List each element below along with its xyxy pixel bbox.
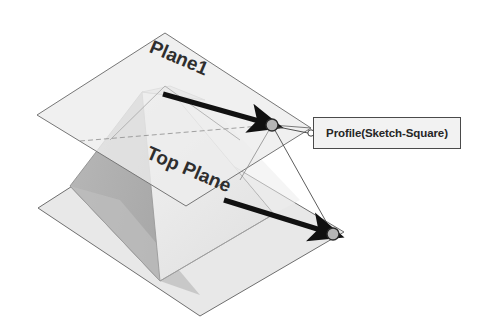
cad-scene [0,0,493,325]
profile-vertex-upper-icon[interactable] [266,119,278,131]
profile-callout-box[interactable]: Profile(Sketch-Square) [313,117,461,149]
profile-vertex-lower-icon[interactable] [327,228,339,240]
cad-viewport[interactable]: Plane1 Top Plane Profile(Sketch-Square) [0,0,493,325]
profile-callout-label: Profile(Sketch-Square) [326,127,448,139]
